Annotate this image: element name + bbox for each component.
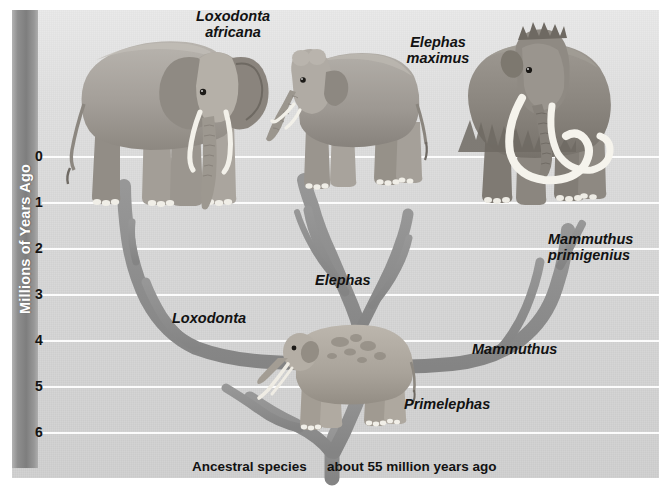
branch-label-primelephas: Primelephas [404, 396, 490, 412]
tick-label-5: 5 [31, 378, 47, 394]
tick-label-6: 6 [31, 424, 47, 440]
species-label-elephas-maximus: Elephas maximus [378, 34, 498, 66]
species-label-mammuthus-primigenius: Mammuthus primigenius [548, 231, 659, 263]
time-axis-bar: Millions of Years Ago [12, 10, 38, 468]
branch-label-loxodonta: Loxodonta [172, 310, 246, 326]
branch-label-elephas: Elephas [315, 272, 371, 288]
species-genus-elephas: Elephas [378, 34, 498, 50]
species-epithet-maximus: maximus [378, 50, 498, 66]
tick-label-1: 1 [31, 194, 47, 210]
tick-label-0: 0 [31, 148, 47, 164]
tick-label-2: 2 [31, 240, 47, 256]
tick-label-4: 4 [31, 332, 47, 348]
root-label: Ancestral species [192, 459, 307, 474]
species-genus-loxodonta: Loxodonta [168, 8, 298, 24]
species-label-loxodonta-africana: Loxodonta africana [168, 8, 298, 40]
species-genus-mammuthus: Mammuthus [548, 231, 659, 247]
root-age-note: about 55 million years ago [327, 459, 497, 474]
species-epithet-africana: africana [168, 24, 298, 40]
species-epithet-primigenius: primigenius [548, 247, 659, 263]
branch-label-mammuthus: Mammuthus [472, 341, 557, 357]
elephant-phylogeny-figure: Millions of Years Ago 0 1 2 3 4 5 6 Loxo… [0, 0, 659, 494]
tick-label-3: 3 [31, 286, 47, 302]
